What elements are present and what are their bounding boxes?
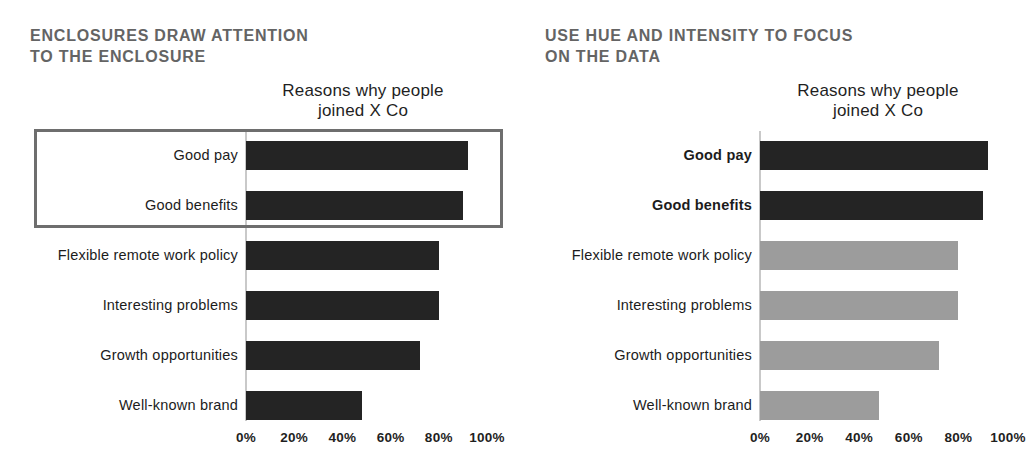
heading-line: TO THE ENCLOSURE bbox=[30, 46, 309, 67]
chart-title-line: Reasons why people bbox=[758, 81, 998, 101]
bar-row: Interesting problems bbox=[545, 280, 1008, 330]
bar-track bbox=[760, 141, 1008, 170]
bar-track bbox=[246, 391, 487, 420]
bar-flexible-remote-work-policy bbox=[760, 241, 958, 270]
x-axis-tick: 80% bbox=[944, 430, 972, 445]
bar-interesting-problems bbox=[246, 291, 439, 320]
bar-row: Good benefits bbox=[545, 180, 1008, 230]
bar-row: Interesting problems bbox=[30, 280, 487, 330]
x-axis-tick: 40% bbox=[845, 430, 873, 445]
bar-track bbox=[760, 341, 1008, 370]
bar-row: Well-known brand bbox=[30, 380, 487, 430]
x-axis-tick: 20% bbox=[280, 430, 308, 445]
bar-row: Well-known brand bbox=[545, 380, 1008, 430]
heading-line: ENCLOSURES DRAW ATTENTION bbox=[30, 25, 309, 46]
x-axis-tick: 0% bbox=[236, 430, 256, 445]
heading-line: ON THE DATA bbox=[545, 46, 853, 67]
right-chart-x-axis: 0%20%40%60%80%100% bbox=[760, 430, 1008, 448]
x-axis-tick: 40% bbox=[328, 430, 356, 445]
heading-line: USE HUE AND INTENSITY TO FOCUS bbox=[545, 25, 853, 46]
left-chart-x-axis: 0%20%40%60%80%100% bbox=[246, 430, 487, 448]
x-axis-tick: 80% bbox=[425, 430, 453, 445]
bar-track bbox=[246, 341, 487, 370]
x-axis-tick: 100% bbox=[469, 430, 505, 445]
chart-title-line: joined X Co bbox=[243, 101, 483, 121]
category-label-well-known-brand: Well-known brand bbox=[30, 397, 238, 413]
category-label-good-benefits: Good benefits bbox=[545, 197, 752, 213]
chart-title-line: joined X Co bbox=[758, 101, 998, 121]
x-axis-tick: 60% bbox=[377, 430, 405, 445]
bar-track bbox=[246, 241, 487, 270]
left-panel-heading: ENCLOSURES DRAW ATTENTION TO THE ENCLOSU… bbox=[30, 25, 309, 67]
enclosure-annotation-box bbox=[34, 129, 503, 228]
bar-row: Growth opportunities bbox=[545, 330, 1008, 380]
bar-well-known-brand bbox=[760, 391, 879, 420]
category-label-flexible-remote-work-policy: Flexible remote work policy bbox=[545, 247, 752, 263]
bar-track bbox=[760, 191, 1008, 220]
bar-track bbox=[760, 391, 1008, 420]
x-axis-tick: 0% bbox=[750, 430, 770, 445]
bar-track bbox=[246, 291, 487, 320]
chart-title-line: Reasons why people bbox=[243, 81, 483, 101]
category-label-well-known-brand: Well-known brand bbox=[545, 397, 752, 413]
bar-interesting-problems bbox=[760, 291, 958, 320]
bar-well-known-brand bbox=[246, 391, 362, 420]
right-chart-title: Reasons why people joined X Co bbox=[758, 81, 998, 121]
x-axis-tick: 60% bbox=[895, 430, 923, 445]
bar-good-pay bbox=[760, 141, 988, 170]
category-label-good-pay: Good pay bbox=[545, 147, 752, 163]
category-label-interesting-problems: Interesting problems bbox=[545, 297, 752, 313]
right-panel-heading: USE HUE AND INTENSITY TO FOCUS ON THE DA… bbox=[545, 25, 853, 67]
x-axis-tick: 20% bbox=[796, 430, 824, 445]
category-label-growth-opportunities: Growth opportunities bbox=[30, 347, 238, 363]
bar-growth-opportunities bbox=[760, 341, 939, 370]
category-label-flexible-remote-work-policy: Flexible remote work policy bbox=[30, 247, 238, 263]
bar-flexible-remote-work-policy bbox=[246, 241, 439, 270]
bar-track bbox=[760, 241, 1008, 270]
bar-row: Flexible remote work policy bbox=[545, 230, 1008, 280]
book-figure: ENCLOSURES DRAW ATTENTION TO THE ENCLOSU… bbox=[0, 0, 1029, 459]
left-chart-title: Reasons why people joined X Co bbox=[243, 81, 483, 121]
bar-track bbox=[760, 291, 1008, 320]
category-label-interesting-problems: Interesting problems bbox=[30, 297, 238, 313]
bar-growth-opportunities bbox=[246, 341, 420, 370]
category-label-growth-opportunities: Growth opportunities bbox=[545, 347, 752, 363]
bar-row: Flexible remote work policy bbox=[30, 230, 487, 280]
bar-row: Growth opportunities bbox=[30, 330, 487, 380]
right-chart-bars: Good payGood benefitsFlexible remote wor… bbox=[545, 130, 1008, 430]
x-axis-tick: 100% bbox=[990, 430, 1026, 445]
bar-good-benefits bbox=[760, 191, 983, 220]
bar-row: Good pay bbox=[545, 130, 1008, 180]
